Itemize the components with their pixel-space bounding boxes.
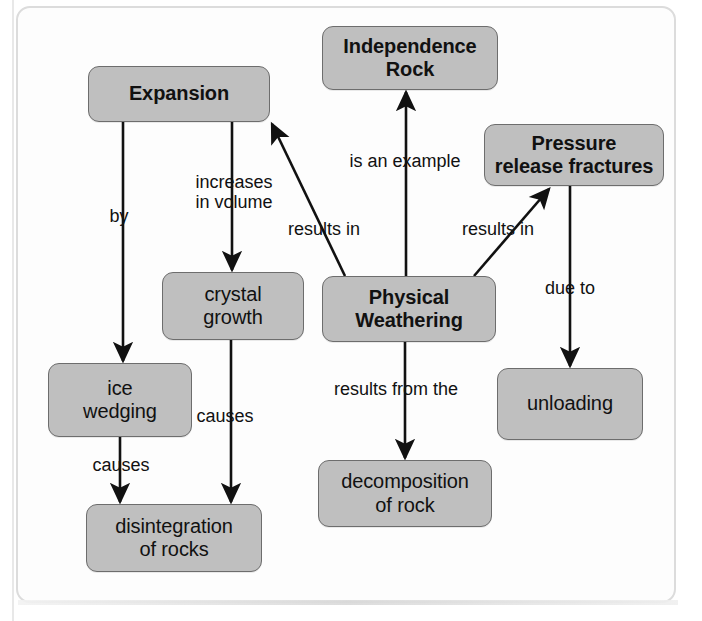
node-expansion-label: Expansion [129,82,229,105]
node-physical-weathering[interactable]: Physical Weathering [322,276,496,342]
node-ice-wedging[interactable]: ice wedging [48,363,192,437]
edge-label-due-to: due to [539,278,601,298]
edge-label-by: by [98,206,140,226]
node-independence-rock[interactable]: Independence Rock [322,26,498,90]
node-decomposition-of-rock-label: decomposition of rock [341,470,469,516]
node-expansion[interactable]: Expansion [88,66,270,122]
edge-label-increases-in-volume: increases in volume [172,172,296,212]
node-pressure-release-fractures-label: Pressure release fractures [495,132,653,178]
node-unloading-label: unloading [527,392,613,415]
concept-map-figure: by increases in volume results in is an … [0,0,702,621]
edge-label-results-in-pressure: results in [456,219,540,239]
edge-label-results-in-expansion: results in [282,219,366,239]
node-crystal-growth-label: crystal growth [203,283,262,329]
edge-label-causes-crystal: causes [192,406,258,426]
node-decomposition-of-rock[interactable]: decomposition of rock [318,460,492,527]
node-unloading[interactable]: unloading [497,368,643,440]
node-independence-rock-label: Independence Rock [343,35,476,81]
node-ice-wedging-label: ice wedging [83,377,157,423]
node-pressure-release-fractures[interactable]: Pressure release fractures [484,124,664,186]
node-disintegration-of-rocks-label: disintegration of rocks [115,515,233,561]
node-crystal-growth[interactable]: crystal growth [162,272,304,340]
node-physical-weathering-label: Physical Weathering [355,286,463,332]
node-disintegration-of-rocks[interactable]: disintegration of rocks [86,504,262,572]
edge-label-is-an-example: is an example [344,151,466,171]
edge-label-results-from-the: results from the [322,379,470,399]
edge-label-causes-ice: causes [88,455,154,475]
